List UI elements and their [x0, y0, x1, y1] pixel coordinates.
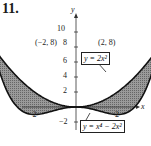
x-axis-label: x [141, 102, 145, 111]
y-tick-neg2: −2 [59, 117, 68, 126]
x-tick-neg2: −2 [28, 110, 37, 119]
point-label-right: (2, 8) [98, 38, 115, 47]
y-tick-10: 10 [57, 24, 65, 33]
curve-label-quartic: y = x⁴ − 2x² [80, 120, 125, 133]
y-tick-4: 4 [63, 71, 67, 80]
y-tick-2: 2 [63, 86, 67, 95]
point-label-left: (−2, 8) [35, 38, 57, 47]
curve-label-2x2: y = 2x² [81, 52, 110, 65]
y-tick-6: 6 [63, 56, 67, 65]
graph [0, 0, 151, 146]
shaded-region [0, 47, 151, 115]
y-axis-label: y [71, 5, 75, 14]
x-tick-2: 2 [115, 110, 119, 119]
y-tick-8: 8 [63, 38, 67, 47]
